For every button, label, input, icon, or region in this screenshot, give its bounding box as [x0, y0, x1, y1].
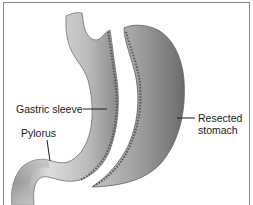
pylorus-label: Pylorus — [21, 127, 56, 139]
pylorus-leader — [47, 140, 50, 161]
gastric-sleeve-label: Gastric sleeve — [16, 103, 83, 115]
resected-stomach-label: Resected stomach — [198, 112, 248, 136]
